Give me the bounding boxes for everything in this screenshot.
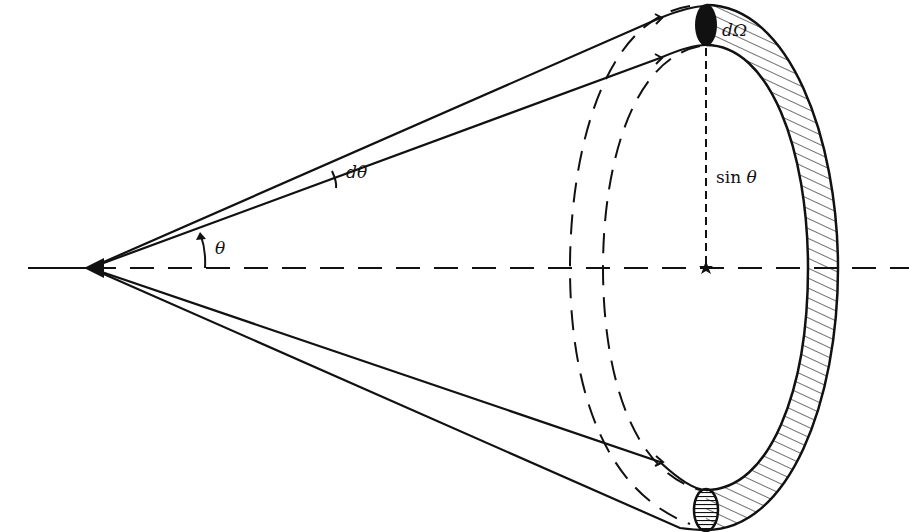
theta-label: θ bbox=[215, 238, 225, 258]
d-theta-label: dθ bbox=[346, 162, 367, 182]
center-star-icon bbox=[699, 261, 713, 274]
d-omega-element bbox=[695, 4, 717, 46]
theta-arc bbox=[201, 236, 205, 268]
diagram-svg bbox=[0, 0, 909, 532]
sin-theta-label: sin θ bbox=[716, 167, 757, 187]
hatched-ring bbox=[700, 0, 850, 532]
theta-arrow-icon bbox=[196, 232, 206, 240]
apex bbox=[84, 258, 104, 278]
generator-arrows bbox=[655, 14, 663, 466]
sin-var: θ bbox=[747, 167, 757, 187]
sin-fn: sin bbox=[716, 167, 741, 187]
solid-angle-diagram: dΩ dθ θ sin θ bbox=[0, 0, 909, 532]
d-omega-label: dΩ bbox=[722, 20, 747, 40]
bottom-element bbox=[694, 489, 718, 531]
